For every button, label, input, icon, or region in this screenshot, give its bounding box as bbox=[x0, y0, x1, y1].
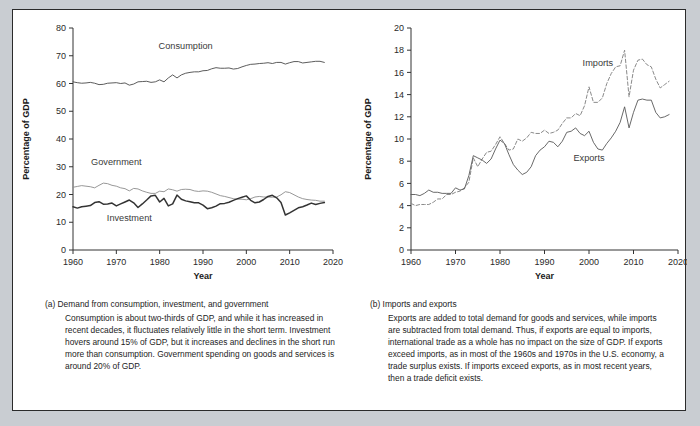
x-tick-label: 1960 bbox=[401, 257, 421, 267]
figure-frame: 0102030405060708019601970198019902000201… bbox=[12, 9, 686, 411]
panel-b-trade-chart: 0246810121416182019601970198019902000201… bbox=[361, 10, 687, 410]
panel-a-caption-head: (a) Demand from consumption, investment,… bbox=[45, 299, 345, 311]
y-tick-label: 18 bbox=[394, 45, 404, 55]
chart-a-svg: 0102030405060708019601970198019902000201… bbox=[13, 10, 361, 300]
y-tick-label: 80 bbox=[56, 23, 66, 33]
x-tick-label: 2010 bbox=[280, 257, 300, 267]
y-tick-label: 50 bbox=[56, 106, 66, 116]
series-line-consumption bbox=[73, 61, 324, 85]
y-tick-label: 60 bbox=[56, 79, 66, 89]
y-tick-label: 10 bbox=[394, 134, 404, 144]
panel-a-demand-chart: 0102030405060708019601970198019902000201… bbox=[13, 10, 361, 410]
x-tick-label: 2000 bbox=[236, 257, 256, 267]
x-tick-label: 1980 bbox=[150, 257, 170, 267]
x-tick-label: 2000 bbox=[579, 257, 599, 267]
series-label-government: Government bbox=[91, 157, 142, 167]
series-label-imports: Imports bbox=[583, 58, 614, 68]
x-tick-label: 2020 bbox=[668, 257, 687, 267]
y-tick-label: 12 bbox=[394, 112, 404, 122]
y-tick-label: 0 bbox=[61, 245, 66, 255]
series-line-government bbox=[73, 183, 324, 201]
y-axis-title: Percentage of GDP bbox=[21, 98, 31, 180]
x-tick-label: 1980 bbox=[490, 257, 510, 267]
x-tick-label: 1990 bbox=[534, 257, 554, 267]
series-label-consumption: Consumption bbox=[159, 41, 213, 51]
y-axis-title: Percentage of GDP bbox=[363, 98, 373, 180]
y-tick-label: 20 bbox=[394, 23, 404, 33]
x-tick-label: 1970 bbox=[445, 257, 465, 267]
y-tick-label: 10 bbox=[56, 217, 66, 227]
x-tick-label: 1970 bbox=[106, 257, 126, 267]
panel-b-caption: (b) Imports and exports Exports are adde… bbox=[370, 299, 670, 384]
series-label-investment: Investment bbox=[107, 213, 152, 223]
panel-a-caption: (a) Demand from consumption, investment,… bbox=[45, 299, 345, 373]
y-tick-label: 14 bbox=[394, 90, 404, 100]
panel-b-caption-body: Exports are added to total demand for go… bbox=[370, 313, 670, 385]
series-line-exports bbox=[411, 99, 669, 196]
y-tick-label: 16 bbox=[394, 68, 404, 78]
panel-b-caption-head: (b) Imports and exports bbox=[370, 299, 670, 311]
y-tick-label: 40 bbox=[56, 134, 66, 144]
x-tick-label: 1990 bbox=[193, 257, 213, 267]
panel-a-caption-body: Consumption is about two-thirds of GDP, … bbox=[45, 313, 345, 373]
y-tick-label: 30 bbox=[56, 162, 66, 172]
y-tick-label: 2 bbox=[399, 223, 404, 233]
y-tick-label: 20 bbox=[56, 190, 66, 200]
x-axis-title: Year bbox=[535, 271, 555, 281]
x-axis-title: Year bbox=[193, 271, 213, 281]
y-tick-label: 0 bbox=[399, 245, 404, 255]
x-tick-label: 2010 bbox=[623, 257, 643, 267]
y-tick-label: 70 bbox=[56, 51, 66, 61]
x-tick-label: 2020 bbox=[323, 257, 343, 267]
series-label-exports: Exports bbox=[573, 153, 605, 163]
y-tick-label: 4 bbox=[399, 201, 404, 211]
y-tick-label: 8 bbox=[399, 156, 404, 166]
series-line-imports bbox=[411, 50, 669, 205]
x-tick-label: 1960 bbox=[63, 257, 83, 267]
y-tick-label: 6 bbox=[399, 179, 404, 189]
chart-b-svg: 0246810121416182019601970198019902000201… bbox=[361, 10, 687, 300]
